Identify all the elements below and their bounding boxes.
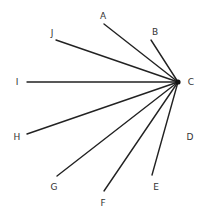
hub-point-c — [175, 79, 180, 84]
line-j-to-c — [56, 40, 178, 82]
line-f-to-c — [104, 82, 178, 191]
point-label-i: I — [16, 77, 19, 87]
point-label-d: D — [187, 132, 194, 142]
line-g-to-c — [57, 82, 178, 176]
line-a-to-c — [104, 24, 178, 82]
point-label-b: B — [152, 27, 158, 37]
point-label-a: A — [100, 11, 107, 21]
radial-line-diagram: ABJIHGFECD — [0, 0, 207, 217]
point-label-j: J — [50, 28, 54, 38]
point-label-g: G — [51, 182, 58, 192]
line-e-to-c — [152, 82, 178, 175]
line-b-to-c — [151, 40, 178, 82]
rays-group — [27, 24, 178, 191]
point-label-h: H — [14, 132, 21, 142]
line-h-to-c — [27, 82, 178, 134]
labels-group: ABJIHGFECD — [14, 11, 195, 208]
point-label-e: E — [153, 182, 159, 192]
point-label-c: C — [188, 77, 194, 87]
point-label-f: F — [100, 198, 105, 208]
